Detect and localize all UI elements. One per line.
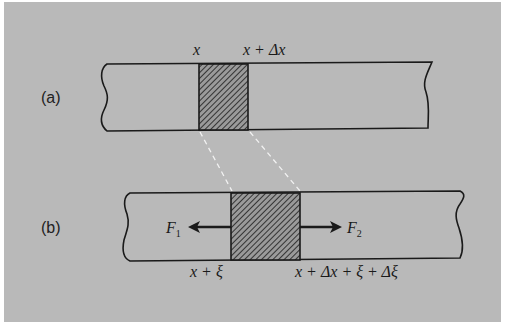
force-f2-label: F2 xyxy=(346,219,362,239)
connector-left xyxy=(200,132,232,191)
position-x-label: x xyxy=(192,41,200,58)
panel-a: (a) x x + Δx xyxy=(41,41,432,131)
force-f1-arrow xyxy=(188,221,231,233)
position-x-plus-xi-label: x + ξ xyxy=(189,263,223,280)
element-a-hatched xyxy=(199,64,248,130)
bar-a-outline xyxy=(101,62,432,131)
force-f1-label: F1 xyxy=(165,219,181,239)
panel-b: (b) F1 F2 x + ξ x + Δx + ξ + Δξ xyxy=(41,191,464,280)
element-b-hatched xyxy=(231,193,300,260)
panel-a-label: (a) xyxy=(41,89,61,106)
force-f2-arrow xyxy=(300,221,342,233)
bar-element-diagram: (a) x x + Δx (b) F1 F2 x + ξ x + Δx + ξ … xyxy=(0,0,511,336)
dashed-connectors xyxy=(200,132,300,191)
connector-right xyxy=(250,132,300,191)
position-x-plus-dx-plus-xi-plus-dxi-label: x + Δx + ξ + Δξ xyxy=(294,263,398,280)
panel-b-label: (b) xyxy=(41,219,61,236)
position-x-plus-dx-label: x + Δx xyxy=(242,41,285,58)
